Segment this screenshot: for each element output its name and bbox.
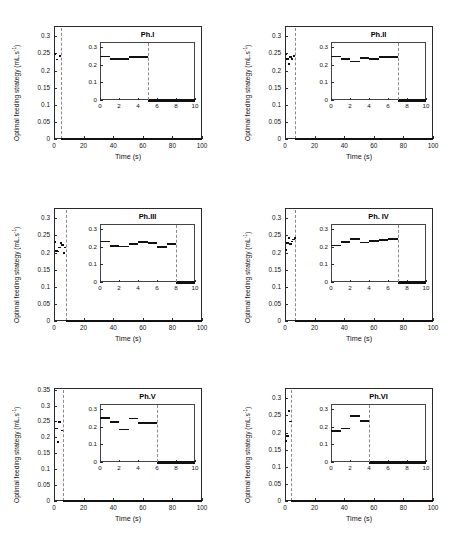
inset-x-tick-mark [119, 460, 120, 463]
y-tick-mark [285, 122, 288, 123]
y-tick-label: 0.25 [255, 411, 281, 418]
y-axis-label: Optimal feeding strategy (mL.s-1) [12, 407, 20, 503]
early-step-marker [286, 58, 288, 60]
inset-y-tick-mark [331, 65, 334, 66]
panel-ph-6: 00.050.10.150.20.250.3020406080100Time (… [231, 366, 461, 547]
inset-step-segment [110, 245, 120, 247]
inset-step-segment [350, 238, 360, 240]
x-tick-mark [54, 318, 55, 321]
panel-title: Ph.VI [315, 392, 442, 401]
inset-x-tick-label: 8 [168, 464, 184, 471]
inset-step-segment [341, 58, 351, 60]
early-step-marker [288, 63, 290, 65]
inset-x-tick-mark [100, 98, 101, 101]
y-tick-label: 0 [255, 317, 281, 324]
inset-step-segment [360, 242, 370, 244]
switch-dashed-line [66, 210, 67, 321]
panel-title: Ph.II [315, 30, 442, 39]
inset-y-tick-mark [100, 462, 103, 463]
inset-y-tick-label: 0.1 [81, 440, 97, 447]
zero-tail-line [295, 138, 433, 140]
inset-y-tick-mark [100, 427, 103, 428]
inset-axes [100, 404, 195, 462]
panel-title: Ph.III [84, 212, 211, 221]
y-axis-label-exponent: -1 [243, 409, 248, 413]
inset-x-tick-mark [331, 280, 332, 283]
y-tick-mark [54, 437, 57, 438]
y-tick-mark [54, 485, 57, 486]
inset-step-segment [167, 243, 177, 245]
inset-x-tick-mark [138, 98, 139, 101]
y-tick-mark [285, 321, 288, 322]
inset-zero-segment [148, 99, 196, 101]
inset-y-tick-label: 0.3 [312, 405, 328, 412]
x-tick-label: 80 [160, 504, 184, 511]
zero-tail-line [291, 500, 433, 502]
early-step-marker [61, 244, 63, 246]
x-axis-label: Time (s) [54, 334, 202, 343]
inset-step-segment [100, 417, 110, 419]
inset-step-segment [331, 56, 341, 58]
x-tick-label: 100 [190, 324, 214, 331]
inset-x-tick-label: 10 [187, 464, 203, 471]
inset-y-tick-label: 0.2 [81, 243, 97, 250]
y-tick-mark [285, 501, 288, 502]
y-tick-label: 0.15 [255, 266, 281, 273]
y-tick-label: 0 [24, 497, 50, 504]
x-tick-label: 80 [391, 142, 415, 149]
y-tick-mark [285, 105, 288, 106]
panel-ph-1: 00.050.10.150.20.250.3020406080100Time (… [0, 4, 230, 185]
inset-y-tick-mark [331, 264, 334, 265]
early-step-marker [289, 421, 291, 423]
y-axis-label-tail: ) [13, 45, 20, 47]
inset-switch-dashed-line [148, 43, 149, 100]
y-tick-mark [285, 88, 288, 89]
inset-y-tick-label: 0.3 [312, 225, 328, 232]
inset-step-segment [157, 246, 167, 248]
inset-step-segment [360, 420, 370, 422]
y-tick-label: 0.05 [24, 481, 50, 488]
y-tick-label: 0.1 [24, 283, 50, 290]
y-tick-label: 0.3 [255, 32, 281, 39]
y-tick-label: 0.25 [24, 49, 50, 56]
inset-x-tick-mark [138, 280, 139, 283]
y-axis-label: Optimal feeding strategy (mL.s-1) [12, 45, 20, 141]
y-axis-label-text: Optimal feeding strategy (mL.s [13, 233, 20, 323]
panel-body: 00.050.10.150.20.250.3020406080100Time (… [231, 186, 461, 367]
inset-y-tick-mark [331, 427, 334, 428]
x-tick-label: 100 [190, 504, 214, 511]
y-axis-label: Optimal feeding strategy (mL.s-1) [12, 227, 20, 323]
panel-title: Ph. IV [315, 212, 442, 221]
y-tick-label: 0 [255, 135, 281, 142]
y-tick-label: 0.05 [24, 118, 50, 125]
inset-x-tick-mark [100, 280, 101, 283]
early-step-marker [288, 410, 290, 412]
early-step-marker [286, 242, 288, 244]
early-step-marker [285, 440, 287, 442]
x-axis-label: Time (s) [285, 514, 433, 523]
inset-x-tick-label: 2 [111, 284, 127, 291]
inset-y-tick-label: 0.1 [312, 78, 328, 85]
y-tick-mark [54, 270, 57, 271]
x-tick-label: 0 [273, 142, 297, 149]
x-tick-mark [202, 318, 203, 321]
inset-y-tick-label: 0.3 [312, 43, 328, 50]
y-tick-mark [285, 71, 288, 72]
inset-y-tick-mark [331, 247, 334, 248]
y-tick-label: 0.25 [255, 231, 281, 238]
inset-step-segment [110, 58, 129, 60]
y-tick-mark [54, 235, 57, 236]
x-tick-label: 20 [72, 504, 96, 511]
inset-x-tick-label: 6 [380, 284, 396, 291]
inset-axes [331, 42, 426, 100]
x-tick-mark [54, 498, 55, 501]
y-axis-label-text: Optimal feeding strategy (mL.s [13, 51, 20, 141]
y-tick-label: 0.05 [255, 480, 281, 487]
inset-x-tick-label: 10 [418, 464, 434, 471]
inset-x-tick-label: 6 [380, 464, 396, 471]
y-tick-mark [54, 304, 57, 305]
inset-step-segment [110, 421, 120, 423]
inset-x-tick-mark [426, 280, 427, 283]
x-tick-label: 20 [303, 142, 327, 149]
early-step-marker [63, 252, 65, 254]
